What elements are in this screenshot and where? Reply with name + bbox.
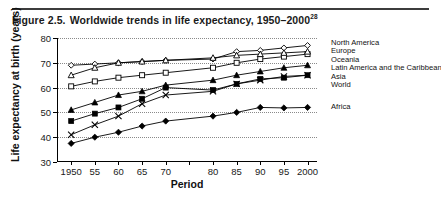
series-europe [69, 52, 310, 89]
y-tick-label-40: 40 [40, 132, 51, 143]
y-tick-30 [53, 162, 57, 163]
x-tick-label-1965: 65 [137, 166, 148, 177]
x-tick-label-1995: 95 [279, 166, 290, 177]
x-tick-label-1960: 60 [113, 166, 124, 177]
figure-footnote-marker: 28 [310, 13, 317, 20]
chart-legend: North AmericaEuropeOceaniaLatin America … [331, 39, 439, 89]
plot-area: 304050607080 195055606570808590952000 [57, 38, 317, 162]
x-tick-label-2000: 2000 [297, 166, 318, 177]
y-tick-label-30: 30 [40, 157, 51, 168]
legend-item-world: World [331, 81, 439, 89]
series-north-america [68, 43, 310, 69]
x-tick-label-1980: 80 [208, 166, 219, 177]
x-tick-label-1970: 70 [160, 166, 171, 177]
inline-series-label-africa: Africa [331, 102, 350, 111]
y-tick-label-50: 50 [40, 107, 51, 118]
x-tick-label-1950: 1950 [61, 166, 82, 177]
x-axis-title: Period [57, 178, 317, 190]
legend-item-latin-america-and-the-caribbean: Latin America and the Caribbean [331, 64, 439, 72]
y-tick-label-60: 60 [40, 82, 51, 93]
x-tick-label-1985: 85 [231, 166, 242, 177]
y-tick-label-80: 80 [40, 33, 51, 44]
series-layer [57, 38, 317, 162]
series-latin-america-and-the-caribbean [68, 62, 310, 112]
y-axis-title: Life expectancy at birth (years) [8, 38, 22, 162]
figure-top-rule [12, 8, 429, 10]
figure-title: Worldwide trends in life expectancy, 195… [70, 14, 311, 26]
x-tick-label-1990: 90 [255, 166, 266, 177]
figure-caption: Figure 2.5.Worldwide trends in life expe… [12, 13, 432, 26]
figure-panel: Figure 2.5.Worldwide trends in life expe… [0, 0, 441, 201]
x-tick-label-1955: 55 [90, 166, 101, 177]
y-tick-label-70: 70 [40, 57, 51, 68]
series-asia [69, 73, 310, 124]
series-world [68, 72, 311, 138]
